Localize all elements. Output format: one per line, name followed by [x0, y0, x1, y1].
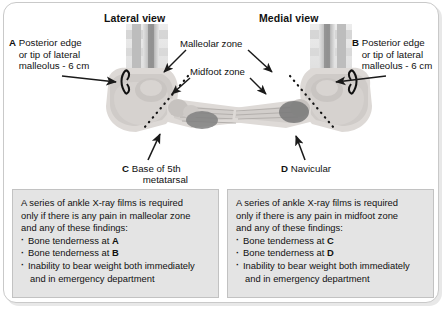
criteria-right-bullet2-bold: D: [327, 247, 334, 258]
callout-a-line1: Posterior edge: [19, 37, 82, 48]
criteria-right-list: Bone tenderness at C Bone tenderness at …: [236, 235, 425, 285]
criteria-box-malleolar: A series of ankle X-ray films is require…: [12, 189, 219, 298]
callout-b-line3: malleolus - 6 cm: [362, 60, 433, 71]
criteria-left-bullet1-bold: A: [112, 235, 119, 246]
criteria-right-bullet1-bold: C: [327, 235, 334, 246]
label-midfoot-zone: Midfoot zone: [190, 66, 245, 78]
criteria-left-bullet2-bold: B: [112, 247, 119, 258]
callout-a: A Posterior edge or tip of lateral malle…: [9, 37, 89, 72]
callout-c-line2: metatarsal: [132, 174, 188, 185]
criteria-box-midfoot: A series of ankle X-ray films is require…: [227, 189, 434, 298]
callout-b-tag: B: [352, 37, 359, 48]
criteria-right-intro-line3: and any of these findings:: [236, 222, 425, 235]
callout-c-line1: Base of 5th: [132, 163, 181, 174]
label-malleolar-zone: Malleolar zone: [180, 38, 242, 50]
criteria-right-bullet3-cont: and in emergency department: [243, 273, 425, 286]
criteria-left-bullet1-text: Bone tenderness at: [28, 235, 112, 246]
criteria-left-intro-line1: A series of ankle X-ray films is require…: [21, 197, 210, 210]
zone-marker-base-5th-metatarsal: [186, 111, 218, 129]
callout-d-line1: Navicular: [291, 163, 331, 174]
callout-d-text: Navicular: [291, 163, 331, 174]
callout-b-line1: Posterior edge: [362, 37, 425, 48]
criteria-left-intro-line2: only if there is any pain in malleolar z…: [21, 210, 210, 223]
list-item: Bone tenderness at C: [236, 235, 425, 248]
heading-medial-view: Medial view: [259, 12, 318, 24]
callout-a-line3: malleolus - 6 cm: [19, 60, 90, 71]
criteria-left-list: Bone tenderness at A Bone tenderness at …: [21, 235, 210, 285]
list-item: Bone tenderness at B: [21, 247, 210, 260]
callout-d: D Navicular: [281, 163, 331, 175]
criteria-right-intro-line2: only if there is any pain in midfoot zon…: [236, 210, 425, 223]
zone-marker-navicular: [279, 101, 309, 123]
callout-b-line2: or tip of lateral: [362, 49, 423, 60]
ottawa-ankle-rules-figure: Lateral view Medial view: [0, 0, 446, 309]
criteria-left-bullet2-text: Bone tenderness at: [28, 247, 112, 258]
callout-a-line2: or tip of lateral: [19, 49, 80, 60]
callout-b-text: Posterior edge or tip of lateral malleol…: [362, 37, 433, 72]
callout-c: C Base of 5th metatarsal: [122, 163, 188, 186]
criteria-right-bullet2-text: Bone tenderness at: [243, 247, 327, 258]
criteria-right-bullet3-text: Inability to bear weight both immediatel…: [243, 260, 410, 271]
criteria-left-intro-line3: and any of these findings:: [21, 222, 210, 235]
list-item: Inability to bear weight both immediatel…: [21, 260, 210, 285]
criteria-left-bullet3-cont: and in emergency department: [28, 273, 210, 286]
callout-d-tag: D: [281, 163, 288, 174]
callout-c-text: Base of 5th metatarsal: [132, 163, 188, 186]
callout-a-tag: A: [9, 37, 16, 48]
list-item: Bone tenderness at D: [236, 247, 425, 260]
list-item: Inability to bear weight both immediatel…: [236, 260, 425, 285]
criteria-right-bullet1-text: Bone tenderness at: [243, 235, 327, 246]
criteria-left-bullet3-text: Inability to bear weight both immediatel…: [28, 260, 195, 271]
callout-a-text: Posterior edge or tip of lateral malleol…: [19, 37, 90, 72]
callout-b: B Posterior edge or tip of lateral malle…: [352, 37, 432, 72]
heading-lateral-view: Lateral view: [104, 12, 165, 24]
criteria-right-intro-line1: A series of ankle X-ray films is require…: [236, 197, 425, 210]
callout-c-tag: C: [122, 163, 129, 174]
list-item: Bone tenderness at A: [21, 235, 210, 248]
